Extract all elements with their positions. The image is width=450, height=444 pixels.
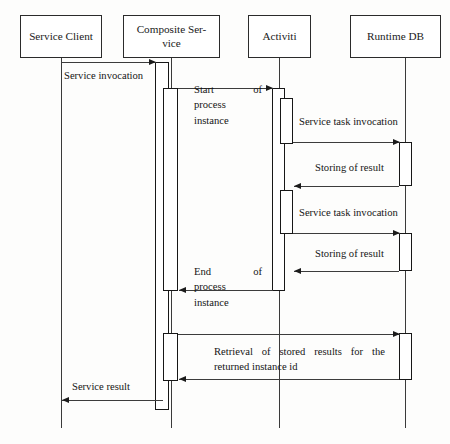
message-label-service-task-invocation-1: Service task invocation (299, 114, 427, 129)
message-line-service-task-invocation-2 (293, 233, 400, 234)
arrow-head-service-invocation (149, 59, 156, 65)
message-label-storing-of-result-1: Storing of result (315, 160, 411, 175)
participant-box-composite-service[interactable]: Composite Ser-vice (123, 15, 220, 58)
message-line-service-result (62, 400, 163, 401)
arrow-head-retrieval-request (393, 331, 400, 337)
arrow-head-storing-of-result-1 (294, 183, 301, 189)
message-line-service-invocation (62, 62, 156, 63)
arrow-head-end-of-process-instance (179, 287, 186, 293)
lifeline-service-client (61, 58, 62, 428)
participant-label-runtime-db: Runtime DB (355, 30, 436, 43)
message-label-service-invocation: Service invocation (64, 68, 169, 83)
message-label-storing-of-result-2: Storing of result (315, 246, 411, 261)
arrow-head-service-result (62, 397, 69, 403)
arrow-head-retrieval-response (179, 376, 186, 382)
arrow-head-service-task-invocation-1 (393, 139, 400, 145)
participant-box-activiti[interactable]: Activiti (248, 15, 311, 58)
activation-bar-composite-inner-2 (163, 333, 178, 381)
message-line-storing-of-result-2 (294, 271, 399, 272)
arrow-head-start-of-process-instance (266, 85, 273, 91)
message-label-service-result: Service result (72, 379, 162, 394)
participant-label-composite-service: Composite Ser-vice (128, 23, 215, 49)
activation-bar-runtimedb-bar-3 (399, 333, 412, 380)
participant-box-runtime-db[interactable]: Runtime DB (350, 15, 441, 58)
activation-bar-activiti-inner-2 (280, 190, 293, 234)
arrow-head-service-task-invocation-2 (393, 230, 400, 236)
message-label-service-task-invocation-2: Service task invocation (299, 205, 427, 220)
message-line-service-task-invocation-1 (293, 142, 400, 143)
participant-label-service-client: Service Client (25, 30, 97, 43)
participant-box-service-client[interactable]: Service Client (20, 15, 102, 58)
message-line-storing-of-result-1 (294, 186, 399, 187)
activation-bar-activiti-inner-1 (280, 98, 293, 144)
arrow-head-storing-of-result-2 (294, 268, 301, 274)
message-label-retrieval-request: Retrieval of stored results for theretur… (214, 344, 385, 375)
message-line-retrieval-response (179, 379, 399, 380)
message-line-retrieval-request (178, 334, 400, 335)
activation-bar-composite-inner-1 (163, 88, 178, 291)
participant-label-activiti: Activiti (253, 30, 306, 43)
sequence-diagram-canvas: Service ClientComposite Ser-viceActiviti… (0, 0, 450, 444)
message-label-end-of-process-instance: End ofprocessinstance (194, 264, 262, 310)
message-label-start-of-process-instance: Start ofprocessinstance (194, 82, 262, 128)
